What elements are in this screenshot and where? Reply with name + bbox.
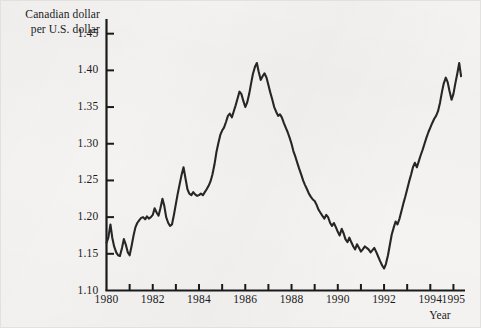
- plot-area: [1, 1, 481, 328]
- chart-figure: Canadian dollar per U.S. dollar Year 1.1…: [0, 0, 481, 328]
- data-series-line: [107, 63, 462, 268]
- y-axis-tick-marks: [107, 34, 115, 254]
- axis-lines: [105, 19, 465, 291]
